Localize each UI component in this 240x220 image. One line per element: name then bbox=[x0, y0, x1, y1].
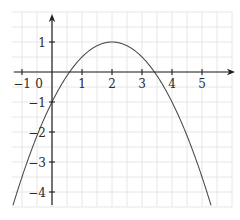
y-tick-label: 1 bbox=[38, 36, 46, 50]
y-tick-label: −1 bbox=[28, 96, 46, 110]
y-tick-label: −3 bbox=[28, 156, 46, 170]
y-tick-label: −2 bbox=[28, 126, 46, 140]
y-tick-label: −4 bbox=[28, 186, 46, 200]
origin-label: 0 bbox=[35, 77, 43, 91]
x-tick-label: 1 bbox=[78, 77, 86, 91]
plot-svg: −11234501−1−2−3−4 bbox=[0, 0, 240, 220]
x-tick-label: 4 bbox=[168, 77, 176, 91]
x-tick-label: 2 bbox=[108, 77, 116, 91]
x-tick-label: 3 bbox=[138, 77, 146, 91]
x-tick-label: 5 bbox=[198, 77, 206, 91]
x-tick-label: −1 bbox=[13, 77, 31, 91]
parabola-figure: −11234501−1−2−3−4 bbox=[0, 0, 240, 220]
